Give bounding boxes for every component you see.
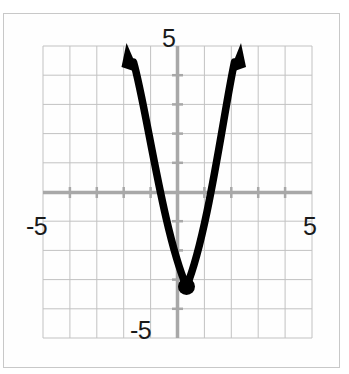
y-axis-min-label: -5 [130, 318, 151, 343]
y-axis-max-label: 5 [162, 26, 175, 51]
parabola-curve [122, 43, 247, 295]
figure-root: 5 -5 -5 5 [0, 0, 349, 374]
x-axis-max-label: 5 [303, 214, 316, 239]
coordinate-plane [0, 0, 349, 374]
axes [43, 46, 312, 338]
x-axis-min-label: -5 [26, 214, 47, 239]
vertex-dot-marker [178, 278, 195, 295]
parabola-path [134, 62, 235, 287]
